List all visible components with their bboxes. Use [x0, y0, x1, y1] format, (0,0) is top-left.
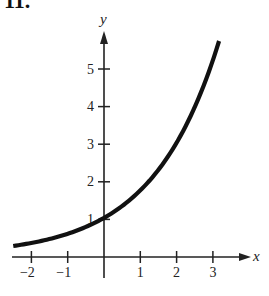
y-tick-label: 4: [87, 99, 94, 114]
x-axis-arrowhead-icon: [239, 253, 251, 261]
x-tick-label: 2: [173, 265, 180, 280]
x-tick-label: −1: [56, 265, 71, 280]
x-tick-label: −2: [20, 265, 35, 280]
y-axis-arrowhead-icon: [100, 31, 108, 44]
data-curve: [13, 41, 219, 246]
exponential-graph: x y −2−112312345: [0, 0, 269, 296]
x-axis-label: x: [252, 248, 260, 264]
y-tick-label: 5: [87, 62, 94, 77]
x-tick-label: 3: [209, 265, 216, 280]
x-tick-label: 1: [137, 265, 144, 280]
y-tick-label: 3: [87, 137, 94, 152]
ticks: −2−112312345: [20, 62, 216, 281]
y-tick-label: 2: [87, 174, 94, 189]
y-axis-label: y: [98, 11, 107, 27]
